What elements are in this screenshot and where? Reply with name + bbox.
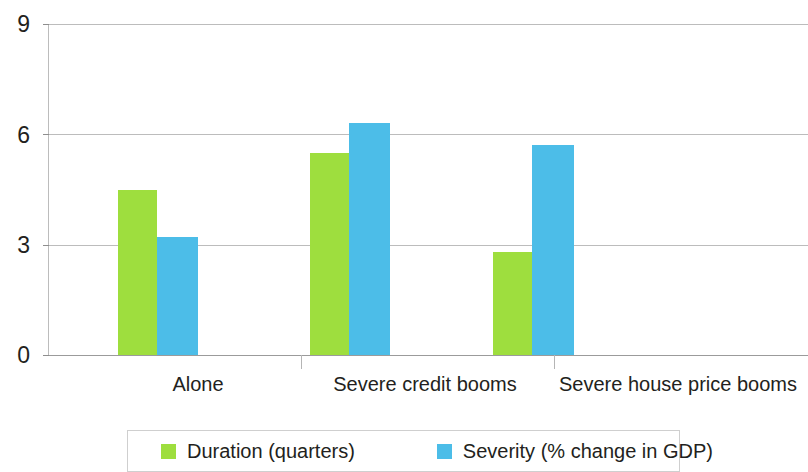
- bar-alone-duration: [118, 190, 157, 356]
- x-axis-category-label-severe-house-price-booms: Severe house price booms: [548, 372, 808, 396]
- gridline-9: [48, 24, 808, 25]
- bar-severe-house-price-booms-duration: [493, 252, 532, 355]
- legend-label-duration: Duration (quarters): [187, 440, 355, 462]
- legend-swatch-icon-duration: [161, 444, 176, 459]
- chart-legend: Duration (quarters) Severity (% change i…: [127, 430, 680, 472]
- category-separator-1: [301, 355, 302, 369]
- y-axis-tick-label-9: 9: [0, 13, 30, 36]
- bar-alone-severity: [157, 237, 198, 355]
- y-axis-tick-0: [43, 355, 49, 356]
- x-axis-line: [48, 355, 808, 356]
- bar-severe-credit-booms-severity: [349, 123, 390, 355]
- y-axis-tick-label-0: 0: [0, 344, 30, 367]
- category-separator-2: [554, 355, 555, 369]
- y-axis-tick-label-6: 6: [0, 124, 30, 147]
- legend-swatch-icon-severity: [437, 444, 452, 459]
- legend-item-duration: Duration (quarters): [161, 440, 355, 462]
- x-axis-category-label-alone: Alone: [118, 372, 278, 396]
- gridline-6: [48, 134, 808, 135]
- legend-label-severity: Severity (% change in GDP): [463, 440, 713, 462]
- y-axis-tick-3: [43, 245, 49, 246]
- x-axis-category-label-severe-credit-booms: Severe credit booms: [300, 372, 550, 396]
- bar-severe-house-price-booms-severity: [532, 145, 574, 355]
- y-axis-tick-9: [43, 24, 49, 25]
- plot-area: [48, 24, 808, 355]
- legend-item-severity: Severity (% change in GDP): [437, 440, 713, 462]
- bar-chart: 9 6 3 0 Alone Severe credit booms Severe…: [0, 0, 808, 472]
- y-axis-line: [48, 24, 49, 355]
- bar-severe-credit-booms-duration: [310, 153, 349, 355]
- y-axis-tick-label-3: 3: [0, 234, 30, 257]
- y-axis-tick-6: [43, 134, 49, 135]
